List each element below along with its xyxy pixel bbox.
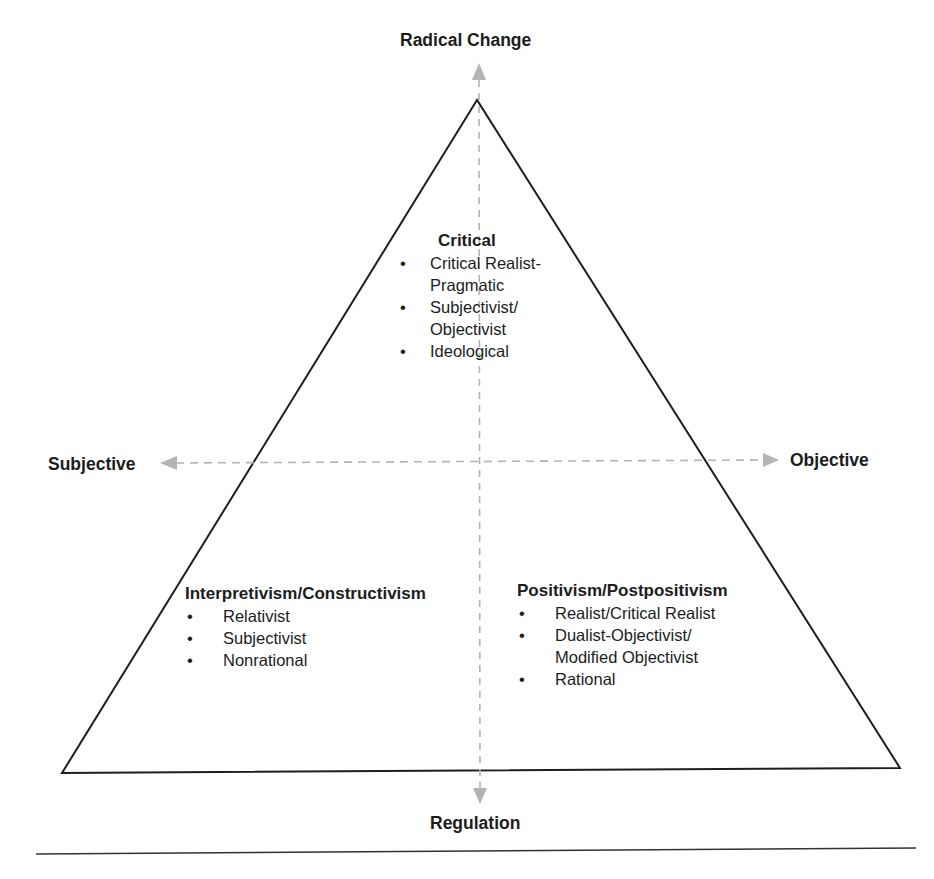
arrow-right-icon bbox=[763, 453, 779, 467]
paradigm-interpretivism: Interpretivism/Constructivism • Relativi… bbox=[185, 583, 426, 671]
bullet-icon: • bbox=[519, 668, 525, 690]
bullet-icon: • bbox=[187, 627, 193, 649]
bottom-rule bbox=[36, 848, 916, 854]
arrow-up-icon bbox=[472, 63, 486, 80]
list-item: • Subjectivist/ Objectivist bbox=[400, 296, 541, 340]
paradigm-title: Positivism/Postpositivism bbox=[517, 580, 728, 602]
paradigm-item-list: • Realist/Critical Realist • Dualist-Obj… bbox=[517, 602, 728, 690]
horizontal-axis-dashed bbox=[176, 460, 765, 463]
list-item: • Rational bbox=[517, 668, 728, 690]
axis-label-radical-change: Radical Change bbox=[400, 30, 531, 51]
list-item: • Subjectivist bbox=[185, 627, 426, 649]
paradigm-triangle bbox=[62, 100, 900, 773]
item-text: Relativist bbox=[223, 607, 290, 625]
bullet-icon: • bbox=[400, 296, 406, 318]
arrow-left-icon bbox=[160, 456, 177, 470]
list-item: • Relativist bbox=[185, 605, 426, 627]
bullet-icon: • bbox=[519, 624, 525, 646]
paradigm-title: Critical bbox=[400, 230, 541, 252]
item-text-continued: Objectivist bbox=[430, 320, 506, 338]
item-text: Rational bbox=[555, 670, 616, 688]
list-item: • Ideological bbox=[400, 340, 541, 362]
paradigm-critical: Critical • Critical Realist- Pragmatic •… bbox=[400, 230, 541, 362]
arrow-down-icon bbox=[473, 788, 487, 804]
paradigm-positivism: Positivism/Postpositivism • Realist/Crit… bbox=[517, 580, 728, 690]
bullet-icon: • bbox=[400, 252, 406, 274]
paradigm-title: Interpretivism/Constructivism bbox=[185, 583, 426, 605]
item-text-continued: Pragmatic bbox=[430, 276, 504, 294]
axis-label-regulation: Regulation bbox=[430, 813, 520, 834]
list-item: • Nonrational bbox=[185, 649, 426, 671]
bullet-icon: • bbox=[519, 602, 525, 624]
item-text-continued: Modified Objectivist bbox=[555, 648, 698, 666]
item-text: Subjectivist/ bbox=[430, 298, 518, 316]
bullet-icon: • bbox=[187, 649, 193, 671]
list-item: • Dualist-Objectivist/ Modified Objectiv… bbox=[517, 624, 728, 668]
item-text: Realist/Critical Realist bbox=[555, 604, 715, 622]
item-text: Ideological bbox=[430, 342, 509, 360]
item-text: Dualist-Objectivist/ bbox=[555, 626, 692, 644]
axis-label-objective: Objective bbox=[790, 450, 869, 471]
item-text: Critical Realist- bbox=[430, 254, 541, 272]
item-text: Subjectivist bbox=[223, 629, 306, 647]
axis-label-subjective: Subjective bbox=[48, 454, 136, 475]
list-item: • Critical Realist- Pragmatic bbox=[400, 252, 541, 296]
paradigm-item-list: • Critical Realist- Pragmatic • Subjecti… bbox=[400, 252, 541, 362]
list-item: • Realist/Critical Realist bbox=[517, 602, 728, 624]
bullet-icon: • bbox=[187, 605, 193, 627]
bullet-icon: • bbox=[400, 340, 406, 362]
vertical-axis-dashed bbox=[479, 80, 480, 790]
item-text: Nonrational bbox=[223, 651, 307, 669]
paradigm-item-list: • Relativist • Subjectivist • Nonrationa… bbox=[185, 605, 426, 671]
paradigm-diagram bbox=[0, 0, 934, 879]
